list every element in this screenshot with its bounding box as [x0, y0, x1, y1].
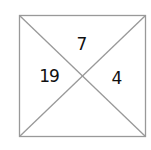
right-region-number: 4 [102, 70, 132, 87]
number-puzzle-diagram: 7 19 4 [0, 0, 151, 150]
left-region-number: 19 [34, 68, 64, 85]
top-region-number: 7 [67, 36, 97, 53]
